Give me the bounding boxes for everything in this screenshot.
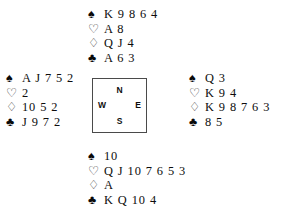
hand-south-diamonds-row: ♢ A <box>88 178 186 193</box>
compass-label-north: N <box>93 86 146 95</box>
hand-south-diamonds-cards: A <box>101 178 114 193</box>
hand-east-hearts-row: ♡ K 9 4 <box>189 86 270 101</box>
compass-box: N W E S <box>92 78 147 133</box>
hand-east-clubs-row: ♣ 8 5 <box>189 115 270 130</box>
hand-south-spades-row: ♠ 10 <box>88 149 186 164</box>
hand-east-spades-row: ♠ Q 3 <box>189 71 270 86</box>
diamond-icon: ♢ <box>6 100 19 115</box>
heart-icon: ♡ <box>6 86 19 101</box>
club-icon: ♣ <box>88 51 101 66</box>
hand-east-diamonds-row: ♢ K 9 8 7 6 3 <box>189 100 270 115</box>
spade-icon: ♠ <box>6 71 19 86</box>
hand-west-hearts-cards: 2 <box>19 86 29 101</box>
hand-west-clubs-row: ♣ J 9 7 2 <box>6 115 74 130</box>
club-icon: ♣ <box>88 193 101 208</box>
hand-south-hearts-cards: Q J 10 7 6 5 3 <box>101 164 186 179</box>
hand-south: ♠ 10 ♡ Q J 10 7 6 5 3 ♢ A ♣ K Q 10 4 <box>88 149 186 207</box>
hand-west-clubs-cards: J 9 7 2 <box>19 115 61 130</box>
hand-south-clubs-cards: K Q 10 4 <box>101 193 157 208</box>
diamond-icon: ♢ <box>88 178 101 193</box>
spade-icon: ♠ <box>88 149 101 164</box>
spade-icon: ♠ <box>88 7 101 22</box>
diamond-icon: ♢ <box>88 36 101 51</box>
compass-label-west: W <box>98 101 106 110</box>
hand-north-clubs-row: ♣ A 6 3 <box>88 51 158 66</box>
hand-west-diamonds-cards: 10 5 2 <box>19 100 58 115</box>
hand-north-clubs-cards: A 6 3 <box>101 51 135 66</box>
hand-north-spades-row: ♠ K 9 8 6 4 <box>88 7 158 22</box>
club-icon: ♣ <box>6 115 19 130</box>
compass-label-east: E <box>135 101 141 110</box>
hand-east-hearts-cards: K 9 4 <box>202 86 237 101</box>
heart-icon: ♡ <box>189 86 202 101</box>
hand-north-hearts-cards: A 8 <box>101 22 124 37</box>
hand-south-clubs-row: ♣ K Q 10 4 <box>88 193 186 208</box>
hand-west-spades-cards: A J 7 5 2 <box>19 71 74 86</box>
hand-north-diamonds-row: ♢ Q J 4 <box>88 36 158 51</box>
hand-north-spades-cards: K 9 8 6 4 <box>101 7 158 22</box>
hand-north-diamonds-cards: Q J 4 <box>101 36 135 51</box>
heart-icon: ♡ <box>88 164 101 179</box>
hand-west-diamonds-row: ♢ 10 5 2 <box>6 100 74 115</box>
hand-west: ♠ A J 7 5 2 ♡ 2 ♢ 10 5 2 ♣ J 9 7 2 <box>6 71 74 129</box>
spade-icon: ♠ <box>189 71 202 86</box>
heart-icon: ♡ <box>88 22 101 37</box>
hand-east: ♠ Q 3 ♡ K 9 4 ♢ K 9 8 7 6 3 ♣ 8 5 <box>189 71 270 129</box>
hand-east-clubs-cards: 8 5 <box>202 115 223 130</box>
hand-west-spades-row: ♠ A J 7 5 2 <box>6 71 74 86</box>
diamond-icon: ♢ <box>189 100 202 115</box>
hand-east-diamonds-cards: K 9 8 7 6 3 <box>202 100 270 115</box>
club-icon: ♣ <box>189 115 202 130</box>
hand-south-hearts-row: ♡ Q J 10 7 6 5 3 <box>88 164 186 179</box>
compass-label-south: S <box>93 117 146 126</box>
hand-west-hearts-row: ♡ 2 <box>6 86 74 101</box>
hand-north-hearts-row: ♡ A 8 <box>88 22 158 37</box>
hand-north: ♠ K 9 8 6 4 ♡ A 8 ♢ Q J 4 ♣ A 6 3 <box>88 7 158 65</box>
hand-south-spades-cards: 10 <box>101 149 118 164</box>
hand-east-spades-cards: Q 3 <box>202 71 226 86</box>
